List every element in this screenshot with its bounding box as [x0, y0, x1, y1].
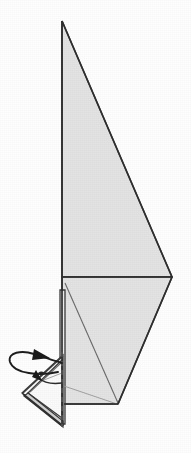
- lower-body-panel: [62, 277, 172, 404]
- origami-diagram-canvas: [0, 0, 191, 453]
- origami-illustration: [0, 0, 191, 453]
- bottom-left-flap-group: [22, 355, 63, 427]
- paper-faces-group: [60, 21, 172, 424]
